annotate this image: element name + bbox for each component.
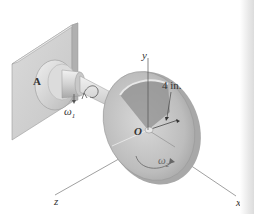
omega2-label: ω2 [158,155,169,169]
disk [87,57,217,199]
origin-label: O [134,126,142,137]
x-axis-line [190,165,236,196]
y-axis-label: y [142,50,147,61]
omega1-label: ω1 [64,106,75,120]
dimension-label: 4 in. [162,80,182,91]
diagram-canvas: A y 4 in. O ω1 ω2 z x [0,0,254,214]
page-edge-shadow [240,0,254,214]
rotating-disk-diagram [0,0,254,214]
z-axis-label: z [54,196,58,207]
support-label-a: A [33,76,41,87]
